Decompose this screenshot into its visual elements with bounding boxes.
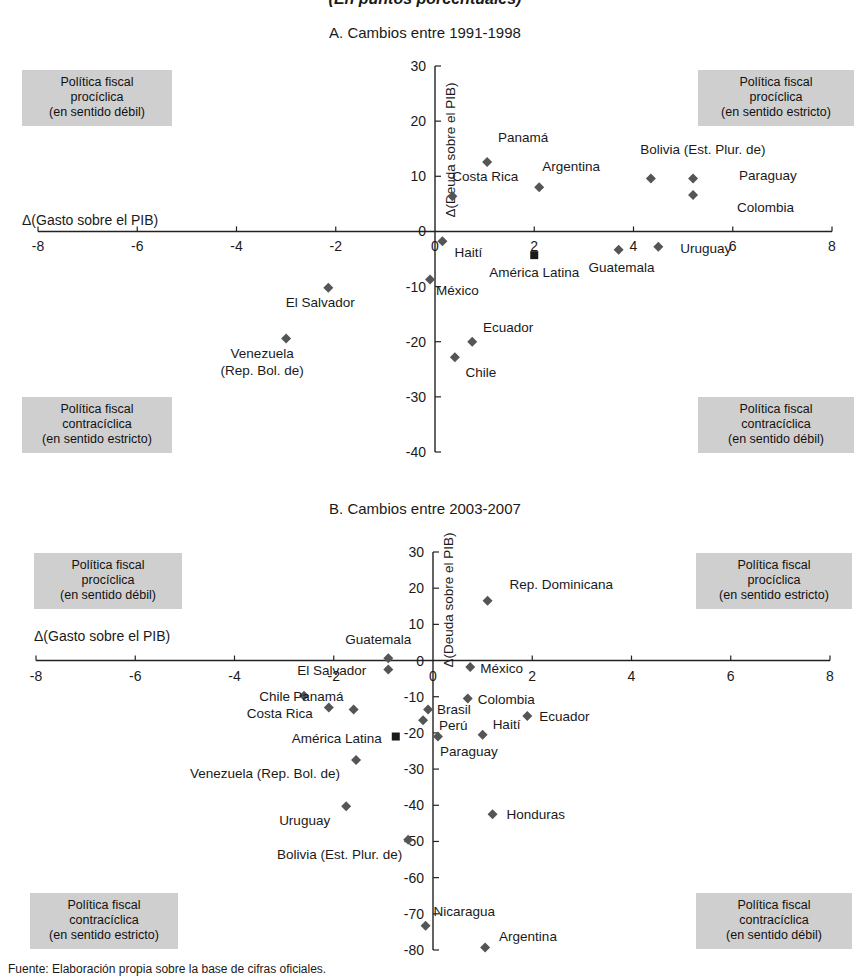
diamond-marker (423, 704, 433, 714)
diamond-marker (488, 809, 498, 819)
diamond-marker (480, 942, 490, 952)
point-label: México (480, 661, 523, 676)
diamond-marker (418, 715, 428, 725)
y-tick-label: -40 (404, 797, 424, 813)
data-point (383, 653, 393, 663)
point-label: Guatemala (345, 632, 412, 647)
diamond-marker (478, 730, 488, 740)
y-tick-label: -30 (404, 761, 424, 777)
data-point (423, 704, 433, 714)
data-point (480, 942, 490, 952)
point-label: El Salvador (297, 663, 367, 678)
y-tick-label: -80 (404, 942, 424, 958)
diamond-marker (522, 711, 532, 721)
x-tick-label: 8 (826, 668, 834, 684)
diamond-marker (341, 801, 351, 811)
y-tick-label: 0 (416, 653, 424, 669)
point-label: Rep. Dominicana (510, 577, 614, 592)
data-point (465, 662, 475, 672)
point-label: Haití (493, 717, 521, 732)
x-tick-label: 4 (628, 668, 636, 684)
point-label: Uruguay (279, 813, 330, 828)
y-tick-label: -60 (404, 870, 424, 886)
data-point (478, 730, 488, 740)
data-point (522, 711, 532, 721)
source-note: Fuente: Elaboración propia sobre la base… (8, 962, 326, 976)
point-label: América Latina (292, 731, 383, 746)
y-tick-label: -20 (404, 725, 424, 741)
point-label: Panamá (293, 689, 344, 704)
data-point (351, 755, 361, 765)
x-tick-label: -8 (30, 668, 43, 684)
diamond-marker (465, 662, 475, 672)
point-label: Venezuela (Rep. Bol. de) (190, 766, 340, 781)
x-tick-label: 6 (727, 668, 735, 684)
point-label: Argentina (499, 929, 557, 944)
data-point (483, 596, 493, 606)
data-point (488, 809, 498, 819)
diamond-marker (421, 921, 431, 931)
data-point (418, 715, 428, 725)
diamond-marker (483, 596, 493, 606)
diamond-marker (351, 755, 361, 765)
y-axis-label: Δ(Deuda sobre el PIB) (441, 532, 456, 667)
y-tick-label: 10 (408, 616, 424, 632)
data-point (349, 704, 359, 714)
diamond-marker (383, 653, 393, 663)
point-label: Brasil (437, 702, 471, 717)
diamond-marker (349, 704, 359, 714)
y-tick-label: 30 (408, 544, 424, 560)
x-tick-label: -4 (228, 668, 241, 684)
data-point (383, 665, 393, 675)
data-point (392, 733, 400, 741)
square-marker (392, 733, 400, 741)
point-label: Costa Rica (247, 706, 314, 721)
point-label: Bolivia (Est. Plur. de) (277, 847, 402, 862)
x-tick-label: -6 (129, 668, 142, 684)
y-tick-label: -70 (404, 906, 424, 922)
point-label: Perú (439, 718, 468, 733)
data-point (421, 921, 431, 931)
point-label: Colombia (478, 692, 536, 707)
point-label: Paraguay (440, 744, 498, 759)
point-label: Honduras (507, 807, 566, 822)
point-label: Nicaragua (434, 904, 496, 919)
point-label: Chile (259, 689, 290, 704)
diamond-marker (383, 665, 393, 675)
y-tick-label: 20 (408, 580, 424, 596)
x-tick-label: 0 (429, 668, 437, 684)
x-tick-label: 2 (528, 668, 536, 684)
data-point (341, 801, 351, 811)
y-tick-label: -10 (404, 689, 424, 705)
point-label: Ecuador (539, 709, 590, 724)
